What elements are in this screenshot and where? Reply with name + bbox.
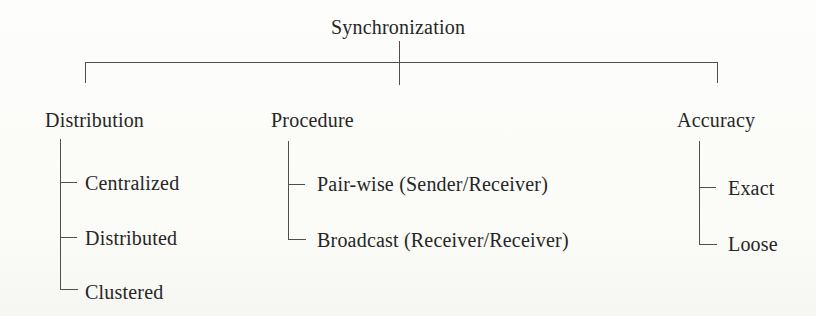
leaf-label-broadcast: Broadcast (Receiver/Receiver): [317, 229, 569, 251]
tick-line-distributed: [60, 237, 77, 238]
synchronization-taxonomy-diagram: Synchronization Distribution Procedure A…: [0, 0, 816, 316]
leaf-label-exact: Exact: [728, 177, 775, 199]
branch-label-procedure: Procedure: [271, 109, 354, 131]
root-node-label: Synchronization: [331, 16, 465, 38]
tick-line-pair-wise: [288, 184, 305, 185]
branch-stem-line-accuracy: [699, 141, 717, 245]
leaf-label-loose: Loose: [728, 233, 778, 255]
leaf-label-centralized: Centralized: [85, 172, 179, 194]
branch-stem-line-distribution: [60, 139, 78, 290]
branch-label-accuracy: Accuracy: [677, 109, 755, 131]
leaf-label-distributed: Distributed: [85, 227, 177, 249]
branch-label-distribution: Distribution: [45, 109, 144, 131]
tick-line-exact: [699, 187, 716, 188]
branch-stem-line-procedure: [288, 141, 306, 240]
top-bracket-connector-line: [85, 62, 718, 83]
leaf-label-pair-wise: Pair-wise (Sender/Receiver): [317, 173, 548, 195]
tick-line-centralized: [60, 182, 77, 183]
leaf-label-clustered: Clustered: [85, 281, 163, 303]
